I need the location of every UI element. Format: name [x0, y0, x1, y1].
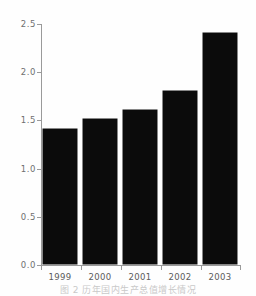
y-axis-tick [37, 24, 42, 25]
x-axis-tick [121, 265, 122, 270]
y-axis-tick [37, 169, 42, 170]
figure: 2.5 2.0 1.5 1.0 0.5 0.0 1999 2000 2001 2… [0, 0, 256, 296]
bar-2001[interactable] [123, 110, 157, 264]
plot-area: 2.5 2.0 1.5 1.0 0.5 0.0 1999 2000 2001 2… [41, 24, 241, 265]
y-axis-tick-label: 2.0 [21, 67, 36, 77]
y-axis-tick-label: 1.0 [21, 164, 36, 174]
x-axis-tick [161, 265, 162, 270]
x-axis-label-2001: 2001 [129, 272, 152, 282]
figure-caption: 图 2 历年国内生产总值增长情况 [0, 283, 256, 296]
y-axis-tick-label: 0.5 [21, 212, 36, 222]
y-axis-tick [37, 120, 42, 121]
y-axis-tick [37, 72, 42, 73]
bar-2002[interactable] [163, 91, 197, 265]
x-axis-tick [201, 265, 202, 270]
y-axis-tick-label: 1.5 [21, 115, 36, 125]
y-axis-tick-label: 2.5 [21, 19, 36, 29]
bar-2000[interactable] [83, 119, 117, 264]
y-axis-tick-label: 0.0 [21, 260, 36, 270]
x-axis-tick [81, 265, 82, 270]
x-axis-tick [240, 265, 241, 270]
x-axis-label-2000: 2000 [89, 272, 112, 282]
x-axis-label-2002: 2002 [169, 272, 192, 282]
bar-1999[interactable] [43, 129, 77, 264]
y-axis-line [41, 24, 42, 266]
x-axis-tick [41, 265, 42, 270]
bar-2003[interactable] [203, 33, 237, 264]
y-axis-tick [37, 217, 42, 218]
x-axis-label-2003: 2003 [209, 272, 232, 282]
x-axis-line [41, 265, 241, 266]
x-axis-label-1999: 1999 [49, 272, 72, 282]
